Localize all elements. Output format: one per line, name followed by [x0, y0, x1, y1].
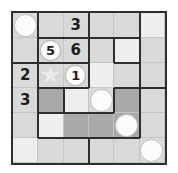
clue-number-6: 6: [71, 43, 81, 58]
grid-cell-r3c1[interactable]: 2: [13, 63, 38, 88]
grid-cell-r4c4[interactable]: [89, 88, 114, 113]
grid-cell-r3c3[interactable]: 1: [64, 63, 89, 88]
grid-cell-r1c4[interactable]: [89, 13, 114, 38]
grid-cell-r1c6[interactable]: [140, 13, 165, 38]
region-edge-vertical: [37, 113, 39, 138]
grid-cell-r3c4[interactable]: [89, 63, 114, 88]
stone-piece[interactable]: [14, 14, 37, 37]
region-edge-vertical: [63, 88, 65, 113]
grid-cell-r1c5[interactable]: [114, 13, 139, 38]
grid-cell-r6c3[interactable]: [64, 138, 89, 163]
region-edge-vertical: [139, 13, 141, 38]
region-edge-vertical: [88, 63, 90, 88]
puzzle-root: 356213: [0, 0, 178, 173]
grid-cell-r5c6[interactable]: [140, 113, 165, 138]
grid-cell-r2c4[interactable]: [89, 38, 114, 63]
region-edge-vertical: [37, 13, 39, 38]
grid-cell-r1c1[interactable]: [13, 13, 38, 38]
stone-piece[interactable]: [90, 89, 113, 112]
clue-number-3: 3: [71, 18, 81, 33]
grid-cell-r6c6[interactable]: [140, 138, 165, 163]
grid-cell-r4c1[interactable]: 3: [13, 88, 38, 113]
stone-piece[interactable]: [140, 139, 163, 162]
grid-cell-r2c2[interactable]: 5: [38, 38, 63, 63]
region-edge-vertical: [139, 38, 141, 63]
circled-clue-5[interactable]: 5: [40, 40, 61, 61]
grid-cell-r2c1[interactable]: [13, 38, 38, 63]
grid-cell-r6c4[interactable]: [89, 138, 114, 163]
grid-cell-r4c2[interactable]: [38, 88, 63, 113]
grid-inner: 356213: [13, 13, 165, 163]
grid-cell-r2c5[interactable]: [114, 38, 139, 63]
clue-number-2: 2: [20, 68, 30, 83]
region-edge-vertical: [88, 138, 90, 163]
region-edge-vertical: [88, 13, 90, 38]
region-edge-horizontal: [114, 37, 139, 39]
grid-cell-r2c3[interactable]: 6: [64, 38, 89, 63]
grid-cell-r1c3[interactable]: 3: [64, 13, 89, 38]
region-edge-horizontal: [114, 62, 139, 64]
puzzle-grid[interactable]: 356213: [11, 11, 167, 165]
region-edge-horizontal: [13, 62, 89, 64]
grid-cell-r6c1[interactable]: [13, 138, 38, 163]
region-edge-vertical: [88, 38, 90, 63]
grid-cell-r4c3[interactable]: [64, 88, 89, 113]
stone-piece[interactable]: [115, 114, 138, 137]
grid-cell-r2c6[interactable]: [140, 38, 165, 63]
grid-cell-r3c5[interactable]: [114, 63, 139, 88]
grid-cell-r5c5[interactable]: [114, 113, 139, 138]
grid-cell-r5c2[interactable]: [38, 113, 63, 138]
region-edge-vertical: [113, 88, 115, 113]
grid-cell-r4c6[interactable]: [140, 88, 165, 113]
grid-cell-r6c5[interactable]: [114, 138, 139, 163]
grid-cell-r5c4[interactable]: [89, 113, 114, 138]
clue-number-3: 3: [20, 93, 30, 108]
grid-cell-r3c2[interactable]: [38, 63, 63, 88]
grid-cell-r6c2[interactable]: [38, 138, 63, 163]
grid-cell-r4c5[interactable]: [114, 88, 139, 113]
grid-cell-r3c6[interactable]: [140, 63, 165, 88]
region-edge-horizontal: [64, 112, 115, 114]
grid-cell-r5c1[interactable]: [13, 113, 38, 138]
circled-clue-1[interactable]: 1: [65, 65, 86, 86]
grid-cell-r5c3[interactable]: [64, 113, 89, 138]
region-edge-horizontal: [38, 37, 89, 39]
star-icon[interactable]: [41, 66, 60, 85]
region-edge-horizontal: [38, 112, 63, 114]
region-edge-vertical: [37, 38, 39, 63]
region-edge-vertical: [139, 63, 141, 138]
region-edge-vertical: [113, 38, 115, 63]
grid-cell-r1c2[interactable]: [38, 13, 63, 38]
